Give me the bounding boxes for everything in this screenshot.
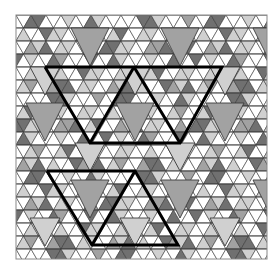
small-triangle-down [69, 262, 84, 274]
small-triangle-up [211, 262, 226, 274]
small-triangle-up [46, 262, 61, 274]
small-triangle-down [84, 262, 99, 274]
small-triangle-down [271, 41, 278, 54]
small-triangle-down [271, 15, 278, 28]
small-triangle-down [1, 119, 16, 132]
small-triangle-up [271, 210, 278, 223]
small-triangle-down [99, 262, 114, 274]
small-triangle-down [159, 262, 174, 274]
small-triangle-up [106, 262, 121, 274]
small-triangle-down [1, 67, 16, 80]
small-triangle-down [264, 262, 279, 274]
small-triangle-up [61, 262, 76, 274]
small-triangle-up [0, 223, 9, 236]
small-triangle-down [271, 223, 278, 236]
small-triangle-down [24, 262, 39, 274]
small-triangle-up [1, 236, 16, 249]
small-triangle-up [91, 262, 106, 274]
small-triangle-up [31, 262, 46, 274]
small-triangle-up [0, 171, 9, 184]
small-triangle-up [1, 262, 16, 274]
small-triangle-up [1, 184, 16, 197]
small-triangle-down [249, 262, 264, 274]
small-triangle-up [0, 197, 9, 210]
small-triangle-down [1, 197, 16, 210]
small-triangle-up [1, 106, 16, 119]
small-triangle-up [1, 54, 16, 67]
small-triangle-up [1, 158, 16, 171]
small-triangle-up [181, 262, 196, 274]
small-triangle-down [234, 262, 249, 274]
small-triangle-up [1, 28, 16, 41]
small-triangle-up [271, 106, 278, 119]
small-triangle-up [151, 262, 166, 274]
small-triangle-down [1, 171, 16, 184]
small-triangle-down [1, 249, 16, 262]
small-triangle-down [271, 119, 278, 132]
small-triangle-down [1, 145, 16, 158]
small-triangle-down [189, 262, 204, 274]
small-triangle-up [121, 262, 136, 274]
small-triangle-up [241, 262, 256, 274]
tiling-figure [0, 0, 278, 274]
small-triangle-up [1, 80, 16, 93]
small-triangle-up [0, 249, 9, 262]
small-triangle-up [196, 262, 211, 274]
small-triangle-up [0, 15, 9, 28]
small-triangle-up [0, 145, 9, 158]
small-triangle-up [136, 262, 151, 274]
small-triangle-up [166, 262, 181, 274]
small-triangle-down [1, 93, 16, 106]
small-triangle-up [271, 132, 278, 145]
small-triangle-down [144, 262, 159, 274]
small-triangle-up [76, 262, 91, 274]
small-triangle-down [271, 171, 278, 184]
small-triangle-down [114, 262, 129, 274]
small-triangle-down [219, 262, 234, 274]
small-triangle-up [0, 119, 9, 132]
small-triangle-down [1, 223, 16, 236]
small-triangle-down [271, 145, 278, 158]
small-triangle-up [226, 262, 241, 274]
small-triangle-up [1, 132, 16, 145]
small-triangle-down [271, 197, 278, 210]
small-triangle-up [271, 236, 278, 249]
small-triangle-down [271, 249, 278, 262]
small-triangle-up [271, 54, 278, 67]
small-triangle-up [271, 158, 278, 171]
small-triangle-up [16, 262, 31, 274]
small-triangle-up [271, 184, 278, 197]
small-triangle-up [271, 262, 278, 274]
small-triangle-up [0, 93, 9, 106]
small-triangle-down [271, 93, 278, 106]
small-triangle-down [1, 41, 16, 54]
small-triangle-down [1, 15, 16, 28]
small-triangle-up [0, 67, 9, 80]
small-triangle-down [174, 262, 189, 274]
small-triangle-up [271, 28, 278, 41]
small-triangle-up [1, 210, 16, 223]
small-triangle-up [271, 80, 278, 93]
small-triangle-down [271, 67, 278, 80]
small-triangle-down [54, 262, 69, 274]
small-triangle-down [9, 262, 24, 274]
small-triangle-up [256, 262, 271, 274]
small-triangle-down [204, 262, 219, 274]
small-triangle-down [129, 262, 144, 274]
small-triangle-up [0, 41, 9, 54]
small-triangle-down [39, 262, 54, 274]
